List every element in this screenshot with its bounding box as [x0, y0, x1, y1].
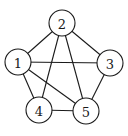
node-5: 5 — [73, 98, 99, 124]
node-label: 3 — [106, 57, 114, 72]
graph-nodes: 12345 — [5, 10, 123, 124]
node-4: 4 — [26, 97, 52, 123]
node-2: 2 — [49, 10, 75, 36]
node-label: 4 — [35, 104, 43, 119]
edge-2-5 — [62, 23, 86, 111]
edge-1-3 — [18, 62, 110, 63]
graph-diagram: 12345 — [0, 0, 128, 136]
node-label: 2 — [58, 17, 66, 32]
node-1: 1 — [5, 49, 31, 75]
node-label: 1 — [14, 56, 22, 71]
node-label: 5 — [82, 105, 90, 120]
node-3: 3 — [97, 50, 123, 76]
